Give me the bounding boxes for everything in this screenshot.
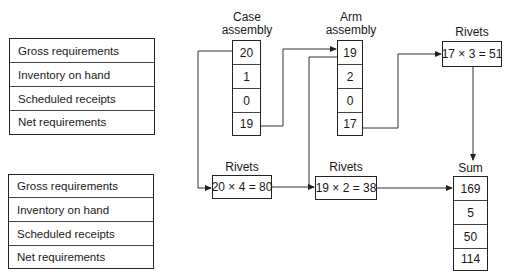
- row-label-scheduled: Scheduled receipts: [9, 222, 153, 246]
- rivets-arm-calc: 17 × 3 = 51: [442, 41, 502, 67]
- rivets-case-calc: 20 × 4 = 80: [212, 175, 272, 199]
- arm-assembly-column: 19 2 0 17: [337, 40, 363, 136]
- row-labels-table-bottom: Gross requirements Inventory on hand Sch…: [8, 174, 154, 269]
- arm-inventory: 2: [338, 65, 362, 89]
- sum-scheduled: 50: [454, 225, 487, 249]
- row-label-net: Net requirements: [9, 246, 153, 267]
- row-label-net: Net requirements: [10, 111, 154, 133]
- case-inventory: 1: [233, 65, 260, 89]
- row-label-inventory: Inventory on hand: [10, 63, 154, 87]
- case-title-line2: assembly: [216, 24, 278, 37]
- case-assembly-title: Case assembly: [216, 11, 278, 37]
- arm-gross: 19: [338, 41, 362, 65]
- sum-title: Sum: [453, 162, 488, 175]
- row-label-inventory: Inventory on hand: [9, 198, 153, 222]
- rivets-case-net-title: Rivets: [315, 161, 377, 174]
- row-label-gross: Gross requirements: [9, 175, 153, 198]
- arm-assembly-title: Arm assembly: [320, 11, 382, 37]
- arm-scheduled: 0: [338, 89, 362, 113]
- case-gross: 20: [233, 41, 260, 65]
- sum-column: 169 5 50 114: [453, 176, 488, 271]
- rivets-case-title: Rivets: [212, 161, 272, 174]
- rivets-arm-title: Rivets: [442, 26, 502, 39]
- rivets-case-net-calc: 19 × 2 = 38: [315, 176, 377, 200]
- arm-net: 17: [338, 113, 362, 134]
- row-label-gross: Gross requirements: [10, 39, 154, 63]
- row-labels-table-top: Gross requirements Inventory on hand Sch…: [9, 38, 155, 135]
- row-label-scheduled: Scheduled receipts: [10, 87, 154, 111]
- sum-inventory: 5: [454, 201, 487, 225]
- case-scheduled: 0: [233, 89, 260, 113]
- sum-gross: 169: [454, 177, 487, 201]
- case-net: 19: [233, 113, 260, 134]
- arm-title-line2: assembly: [320, 24, 382, 37]
- sum-net: 114: [454, 249, 487, 269]
- case-assembly-column: 20 1 0 19: [232, 40, 261, 136]
